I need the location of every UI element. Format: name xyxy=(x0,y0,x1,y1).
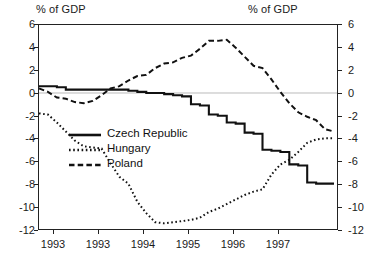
y-tick-label-right: 4 xyxy=(348,41,354,53)
y-tick-label-left: -12 xyxy=(19,224,35,236)
y-tick-mark-right xyxy=(338,24,342,25)
chart-figure: % of GDP % of GDP 66442200-2-2-4-4-6-6-8… xyxy=(0,0,381,266)
legend-item-hungary[interactable]: Hungary xyxy=(68,141,188,155)
chart-legend: Czech RepublicHungaryPoland xyxy=(68,126,188,170)
y-tick-label-right: 6 xyxy=(348,18,354,30)
x-tick-mark xyxy=(98,230,99,234)
x-tick-label: 1993 xyxy=(86,238,110,250)
y-tick-mark-right xyxy=(338,207,342,208)
y-tick-label-right: 2 xyxy=(348,64,354,76)
x-tick-label: 1996 xyxy=(221,238,245,250)
y-tick-mark-right xyxy=(338,47,342,48)
x-tick-label: 1994 xyxy=(131,238,155,250)
x-tick-mark xyxy=(233,230,234,234)
y-tick-mark-right xyxy=(338,138,342,139)
y-tick-label-right: -2 xyxy=(348,110,358,122)
y-tick-label-left: -10 xyxy=(19,201,35,213)
x-tick-mark xyxy=(278,230,279,234)
y-tick-mark-right xyxy=(338,184,342,185)
y-tick-label-right: -4 xyxy=(348,132,358,144)
y-tick-label-right: -12 xyxy=(348,224,364,236)
y-tick-mark-right xyxy=(338,161,342,162)
legend-label: Poland xyxy=(107,157,143,169)
x-tick-label: 1995 xyxy=(176,238,200,250)
x-tick-label: 1997 xyxy=(266,238,290,250)
x-tick-mark xyxy=(188,230,189,234)
legend-swatch-dashed xyxy=(68,157,102,169)
legend-swatch-solid xyxy=(68,127,102,139)
y-tick-mark-right xyxy=(338,93,342,94)
legend-item-poland[interactable]: Poland xyxy=(68,156,188,170)
series-line-poland xyxy=(39,40,334,132)
y-tick-label-right: -8 xyxy=(348,178,358,190)
legend-swatch-dotted xyxy=(68,142,102,154)
legend-label: Czech Republic xyxy=(107,127,188,139)
y-tick-label-right: 0 xyxy=(348,87,354,99)
legend-item-czech-republic[interactable]: Czech Republic xyxy=(68,126,188,140)
x-tick-mark xyxy=(53,230,54,234)
left-axis-caption: % of GDP xyxy=(36,3,86,15)
y-tick-mark-left xyxy=(34,230,38,231)
y-tick-label-right: -10 xyxy=(348,201,364,213)
right-axis-caption: % of GDP xyxy=(248,3,298,15)
y-tick-mark-right xyxy=(338,230,342,231)
x-tick-mark xyxy=(143,230,144,234)
legend-label: Hungary xyxy=(107,142,150,154)
x-tick-label: 1993 xyxy=(41,238,65,250)
y-tick-label-right: -6 xyxy=(348,155,358,167)
y-tick-mark-right xyxy=(338,70,342,71)
y-tick-mark-right xyxy=(338,116,342,117)
